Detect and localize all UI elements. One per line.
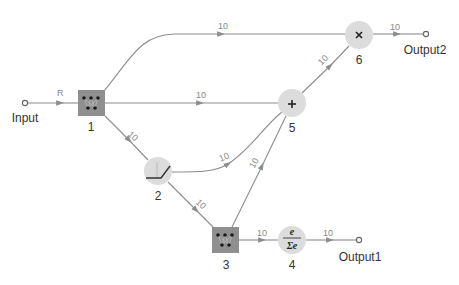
input-label: Input: [12, 111, 39, 125]
node-3-label: 3: [223, 258, 230, 272]
edge-label-1-5: 10: [196, 90, 206, 100]
node-3[interactable]: [212, 227, 239, 253]
output2-port[interactable]: [423, 31, 428, 36]
output1-label: Output1: [339, 250, 382, 264]
edge-1-6: [104, 34, 221, 91]
svg-text:Σe: Σe: [286, 240, 298, 251]
edge-5-6: [302, 66, 330, 93]
node-2-label: 2: [155, 189, 162, 203]
edge-label-6-output2: 10: [390, 22, 400, 32]
svg-text:e: e: [290, 226, 295, 237]
edge-label-3-4: 10: [257, 228, 267, 238]
edge-2-3: [168, 182, 196, 210]
node-4-label: 4: [289, 258, 296, 272]
node-4[interactable]: e Σe: [278, 226, 306, 254]
output1-port[interactable]: [356, 237, 361, 242]
edge-label-4-output1: 10: [323, 228, 333, 238]
output2-label: Output2: [404, 43, 447, 57]
input-port[interactable]: [22, 100, 27, 105]
node-5[interactable]: [278, 89, 306, 117]
node-1[interactable]: [78, 90, 105, 116]
node-1-label: 1: [88, 120, 95, 134]
node-2[interactable]: [144, 157, 172, 185]
edge-3-5: [232, 166, 262, 227]
edge-label-1-6: 10: [218, 21, 228, 31]
edge-2-5: [172, 164, 228, 172]
node-6[interactable]: [345, 21, 373, 49]
node-5-label: 5: [289, 121, 296, 135]
node-6-label: 6: [356, 53, 363, 67]
edge-label-input-1: R: [57, 88, 64, 98]
network-diagram: e Σe: [0, 0, 459, 285]
